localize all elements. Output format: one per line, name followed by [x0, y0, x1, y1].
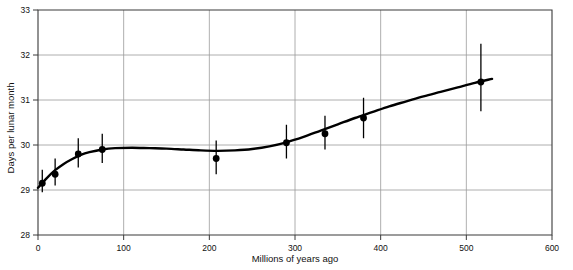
x-axis-tick-label: 300: [288, 243, 302, 253]
x-axis-tick-label: 500: [459, 243, 473, 253]
data-point-marker: [213, 155, 220, 162]
x-axis-tick-label: 0: [36, 243, 41, 253]
data-point-marker: [99, 146, 106, 153]
data-point-marker: [283, 139, 290, 146]
y-axis-tick-label: 32: [21, 50, 31, 60]
y-axis-tick-label: 30: [21, 140, 31, 150]
data-point-marker: [322, 130, 329, 137]
y-axis-tick-label: 31: [21, 95, 31, 105]
data-point-marker: [477, 79, 484, 86]
x-axis-tick-label: 600: [545, 243, 559, 253]
x-axis-tick-label: 100: [117, 243, 131, 253]
data-point-marker: [52, 171, 59, 178]
chart-figure: 0100200300400500600 282930313233 Million…: [0, 0, 573, 270]
lunar-month-days-scatter-chart: 0100200300400500600 282930313233 Million…: [0, 0, 573, 270]
y-axis-tick-label: 28: [21, 230, 31, 240]
y-axis-tick-label: 33: [21, 5, 31, 15]
x-axis-tick-label: 200: [202, 243, 216, 253]
y-axis-tick-label: 29: [21, 185, 31, 195]
x-axis-tick-label: 400: [374, 243, 388, 253]
data-point-marker: [360, 115, 367, 122]
y-axis-title: Days per lunar month: [5, 83, 16, 174]
x-axis-title: Millions of years ago: [252, 253, 339, 264]
data-point-marker: [75, 151, 82, 158]
data-point-marker: [39, 180, 46, 187]
